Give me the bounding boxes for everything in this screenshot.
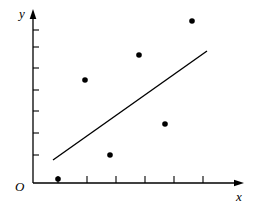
data-point — [82, 77, 88, 83]
origin-label: O — [15, 180, 24, 193]
x-axis-label: x — [236, 190, 242, 203]
x-axis-arrowhead — [234, 180, 244, 187]
plot-canvas — [0, 0, 258, 210]
data-point — [189, 18, 195, 24]
scatter-plot-figure: y x O — [0, 0, 258, 210]
x-axis-ticks — [58, 176, 203, 183]
data-point — [107, 152, 113, 158]
data-points — [55, 18, 195, 182]
trend-line — [53, 51, 207, 160]
y-axis-ticks — [33, 30, 39, 155]
data-point — [55, 176, 61, 182]
data-point — [162, 121, 168, 127]
y-axis-arrowhead — [30, 9, 37, 19]
data-point — [136, 52, 142, 58]
y-axis-label: y — [19, 7, 25, 20]
